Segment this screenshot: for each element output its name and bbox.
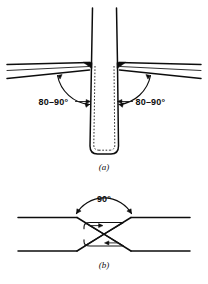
fillet-weld-right xyxy=(117,62,126,68)
lower-weld-bead xyxy=(84,234,124,246)
groove-angle-label: 90° xyxy=(97,194,111,204)
right-flange-plate xyxy=(119,63,201,79)
left-flange-plate xyxy=(7,63,90,79)
right-angle-label: 80–90° xyxy=(136,97,166,107)
web-plate-hidden-edges xyxy=(94,66,115,150)
upper-weld-bead xyxy=(84,223,124,235)
welding-detail-figure: 80–90° 80–90° (a) xyxy=(0,0,208,284)
fillet-weld-left xyxy=(83,62,92,68)
panel-a-diagram: 80–90° 80–90° (a) xyxy=(0,0,208,180)
left-angle-label: 80–90° xyxy=(39,97,69,107)
panel-b-caption: (b) xyxy=(99,260,110,270)
panel-b-diagram: 90° (b) xyxy=(0,180,208,284)
web-plate-vertical xyxy=(92,8,118,64)
panel-a-caption: (a) xyxy=(99,162,110,172)
